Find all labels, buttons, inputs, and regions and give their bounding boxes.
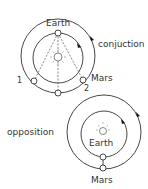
conjunction-diagram: Earth conjuction Mars 1 2	[17, 18, 145, 96]
opposition-title: opposition	[7, 127, 54, 137]
conjunction-mars-label: Mars	[91, 73, 113, 83]
mars-planet	[100, 165, 106, 171]
mars-orbit-arrow-icon	[90, 36, 94, 41]
mars-conjunction	[55, 90, 61, 96]
opposition-diagram: Earth Mars opposition	[7, 95, 141, 185]
mars-position-2	[80, 77, 86, 83]
opposition-earth-label: Earth	[89, 138, 113, 148]
position-2-label: 2	[84, 84, 89, 93]
sun-icon	[96, 122, 110, 135]
conjunction-earth-label: Earth	[46, 18, 70, 28]
mars-position-1	[31, 78, 37, 84]
opposition-mars-label: Mars	[91, 175, 113, 185]
orbit-diagram: Earth conjuction Mars 1 2 Earth Mars opp…	[0, 0, 148, 189]
earth-planet	[100, 154, 106, 160]
earth-planet	[55, 30, 61, 36]
position-1-label: 1	[17, 76, 22, 85]
conjunction-title: conjuction	[98, 39, 145, 49]
mars-orbit-arrow-icon	[136, 112, 140, 117]
